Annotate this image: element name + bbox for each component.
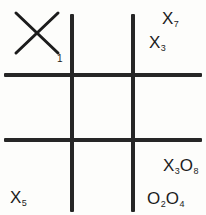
cell-top-right[interactable]: X7 O8 — [135, 0, 206, 73]
cell-top-middle[interactable]: X7 X3 — [74, 0, 131, 73]
cell-middle-left[interactable]: X5 — [0, 77, 70, 138]
big-x-mark-number: 1 — [57, 54, 63, 64]
cell-top-left[interactable]: 1 — [0, 0, 70, 73]
cell-middle-middle[interactable]: X3O8 O2O4 — [74, 77, 131, 138]
big-x-mark-icon — [13, 10, 61, 56]
cell-middle-right[interactable] — [135, 77, 206, 138]
cell-bottom-left[interactable]: X5O2 — [0, 142, 70, 215]
cell-bottom-right[interactable]: 6 — [135, 142, 206, 215]
cell-bottom-middle[interactable]: O4 — [74, 142, 131, 215]
tic-tac-toe-board: 1 X7 X3 X7 O8 X5 X3O8 O2O4 — [0, 0, 206, 215]
